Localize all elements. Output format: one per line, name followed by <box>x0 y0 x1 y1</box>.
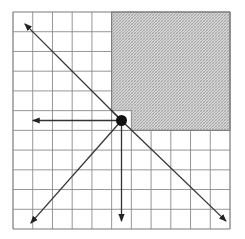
arrow-down-left <box>31 121 122 224</box>
arrow-up-left <box>25 24 122 121</box>
origin-point <box>116 115 127 126</box>
origin-dot <box>116 115 127 126</box>
grid-diagram <box>0 0 245 239</box>
